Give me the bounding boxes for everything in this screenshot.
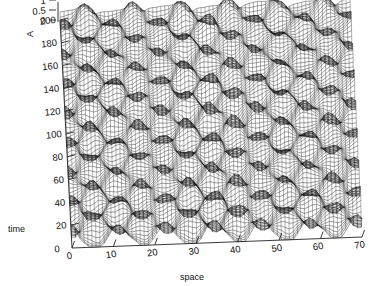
tick-mark <box>362 230 365 237</box>
plot-canvas: 010203040506070 020406080100120140160180… <box>0 0 381 286</box>
tick-label: 0 <box>54 243 60 254</box>
time-axis-title: time <box>8 224 25 234</box>
tick-label: 100 <box>45 128 62 141</box>
tick-label: 20 <box>146 246 158 258</box>
tick-mark <box>72 241 75 248</box>
tick-label: 140 <box>43 82 60 95</box>
tick-label: 50 <box>271 241 283 253</box>
tick-mark <box>62 64 70 66</box>
tick-mark <box>155 238 158 245</box>
amplitude-axis-title: A <box>25 31 35 37</box>
tick-mark <box>66 132 74 134</box>
space-axis-ticks: 010203040506070 <box>66 230 365 261</box>
tick-label: 80 <box>52 151 64 163</box>
tick-label: 120 <box>44 105 61 118</box>
tick-label: 1 <box>40 0 46 6</box>
tick-label: 30 <box>188 245 200 257</box>
wireframe-mesh-surface <box>60 0 362 247</box>
tick-label: 10 <box>105 248 117 260</box>
tick-label: 40 <box>229 243 241 255</box>
tick-mark <box>321 232 324 239</box>
tick-label: 70 <box>354 238 366 250</box>
surface-plot-figure: 010203040506070 020406080100120140160180… <box>0 0 381 286</box>
tick-label: 0.5 <box>32 5 46 17</box>
tick-label: 60 <box>312 240 324 252</box>
tick-label: 160 <box>42 60 59 73</box>
tick-mark <box>113 239 116 246</box>
tick-label: 60 <box>53 174 65 186</box>
tick-label: 180 <box>40 37 57 50</box>
tick-label: 20 <box>55 219 67 231</box>
tick-label: 0 <box>66 250 73 262</box>
tick-label: 40 <box>54 196 66 208</box>
tick-mark <box>61 41 69 43</box>
space-axis-title: space <box>180 272 204 282</box>
